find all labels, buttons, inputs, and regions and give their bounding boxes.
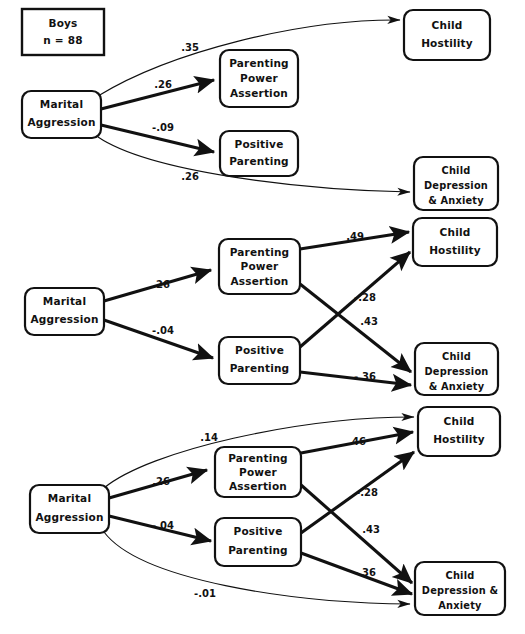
node-label-line: Assertion <box>229 480 287 492</box>
panel-1: Boys n = 88 .35 .26 -.09 .26 Marital Agg… <box>22 9 498 210</box>
node-p3-positive-parenting: Positive Parenting <box>215 518 301 566</box>
node-p2-child-depression-anxiety: Child Depression & Anxiety <box>415 343 498 395</box>
node-label-line: Marital <box>48 492 91 504</box>
coef-p3-ma-to-pp: -.04 <box>152 520 174 531</box>
coef-p2-ma-to-ppa: .26 <box>152 279 170 290</box>
node-p1-child-hostility: Child Hostility <box>404 10 490 60</box>
node-p1-positive-parenting: Positive Parenting <box>220 131 298 176</box>
coef-p3-ma-to-ch: .14 <box>200 432 218 443</box>
node-p3-marital-aggression: Marital Aggression <box>30 485 109 533</box>
node-p1-parenting-power-assertion: Parenting Power Assertion <box>220 50 298 107</box>
path-diagram-figure: Boys n = 88 .35 .26 -.09 .26 Marital Agg… <box>0 0 525 634</box>
coef-p1-ma-to-ppa: .26 <box>154 79 172 90</box>
coef-p1-ma-to-cda: .26 <box>181 171 199 182</box>
node-p3-child-depression-anxiety: Child Depression & Anxiety <box>415 562 505 615</box>
node-label-line: Child <box>444 415 475 427</box>
node-label-line: Depression <box>425 366 489 377</box>
node-label-line: Positive <box>235 344 284 356</box>
node-label-line: Aggression <box>35 511 103 523</box>
coef-p3-pp-to-cda: -.36 <box>354 567 376 578</box>
node-label-line: Assertion <box>230 275 288 287</box>
node-label-line: Aggression <box>30 313 98 325</box>
node-label-line: Parenting <box>230 362 290 374</box>
node-p2-marital-aggression: Marital Aggression <box>25 288 104 335</box>
sample-size-box: Boys n = 88 <box>22 9 104 55</box>
node-label-line: & Anxiety <box>428 195 484 206</box>
node-label-line: Power <box>239 466 278 478</box>
node-label-line: Positive <box>235 138 284 150</box>
coef-p2-pp-to-ch: .43 <box>360 316 378 327</box>
coef-p2-ppa-to-ch: .49 <box>346 231 364 242</box>
node-label-line: Parenting <box>228 544 288 556</box>
node-label-line: Parenting <box>229 155 289 167</box>
node-label-line: Marital <box>40 98 83 110</box>
node-label-line: Child <box>446 570 475 581</box>
diagram-canvas: Boys n = 88 .35 .26 -.09 .26 Marital Agg… <box>0 0 525 634</box>
coef-p3-ppa-to-ch: .46 <box>348 436 366 447</box>
sample-group-label: Boys <box>48 17 77 29</box>
node-label-line: Assertion <box>230 87 288 99</box>
node-label-line: Power <box>241 260 280 272</box>
coef-p3-ma-to-cda: -.01 <box>194 588 216 599</box>
node-label-line: Hostility <box>429 244 481 256</box>
node-label-line: Parenting <box>228 452 288 464</box>
node-label-line: Hostility <box>433 433 485 445</box>
node-label-line: Aggression <box>27 116 95 128</box>
node-p1-child-depression-anxiety: Child Depression & Anxiety <box>414 157 498 210</box>
node-label-line: Marital <box>43 295 86 307</box>
coef-p1-ma-to-pp: -.09 <box>152 122 174 133</box>
node-p1-marital-aggression: Marital Aggression <box>22 91 101 138</box>
node-label-line: Child <box>432 19 463 31</box>
node-label-line: Anxiety <box>438 600 482 611</box>
node-p3-parenting-power-assertion: Parenting Power Assertion <box>215 447 301 497</box>
coef-p3-ma-to-ppa: .26 <box>152 476 170 487</box>
coef-p2-ma-to-pp: -.04 <box>152 325 174 336</box>
sample-size-label: n = 88 <box>43 34 82 46</box>
coef-p3-pp-to-ch: .43 <box>362 524 380 535</box>
node-label-line: Power <box>240 72 279 84</box>
path-p2-pp-to-child-hostility <box>300 252 410 347</box>
node-p3-child-hostility: Child Hostility <box>418 407 500 456</box>
node-label-line: Child <box>442 165 471 176</box>
node-p2-parenting-power-assertion: Parenting Power Assertion <box>219 239 300 294</box>
node-label-line: & Anxiety <box>429 381 485 392</box>
node-label-line: Child <box>440 226 471 238</box>
node-label-line: Depression & <box>422 585 499 596</box>
node-label-line: Parenting <box>230 246 290 258</box>
coef-p1-ma-to-ch: .35 <box>181 42 199 53</box>
node-label-line: Depression <box>424 180 488 191</box>
node-label-line: Child <box>442 351 471 362</box>
panel-3: .14 .26 -.04 -.01 .46 -.28 .43 -.36 Mari… <box>30 407 505 615</box>
coef-p2-pp-to-cda: -.36 <box>354 371 376 382</box>
node-label-line: Positive <box>234 525 283 537</box>
node-label-line: Hostility <box>421 37 473 49</box>
node-p2-child-hostility: Child Hostility <box>413 218 497 266</box>
path-p3-pp-to-child-hostility <box>301 452 414 533</box>
node-p2-positive-parenting: Positive Parenting <box>219 337 300 384</box>
panel-2: .26 -.04 .49 -.28 .43 -.36 Marital Aggre… <box>25 218 498 395</box>
node-label-line: Parenting <box>229 57 289 69</box>
